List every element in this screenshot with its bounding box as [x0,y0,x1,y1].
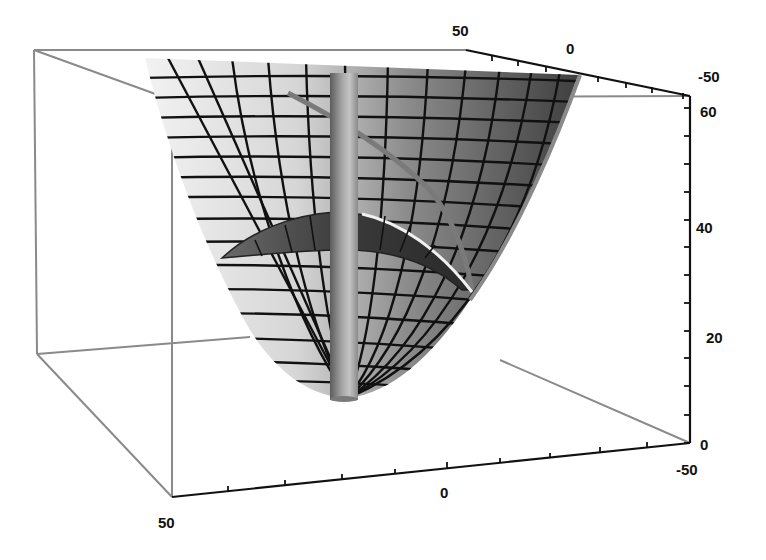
label-z-40: 40 [696,219,713,236]
label-top-50: 50 [452,22,469,39]
label-z-0: 0 [700,436,708,453]
vertical-cylinder [330,73,358,402]
label-bottom-left-50: 50 [158,514,175,531]
label-z-60: 60 [700,103,717,120]
label-bottom-right-neg50: -50 [676,461,698,478]
label-top-0: 0 [566,40,574,57]
label-top-right-neg50: -50 [698,68,720,85]
label-bottom-0: 0 [440,484,448,501]
3d-plot: 50 0 -50 60 40 20 0 -50 0 50 [0,0,766,560]
label-z-20: 20 [706,329,723,346]
